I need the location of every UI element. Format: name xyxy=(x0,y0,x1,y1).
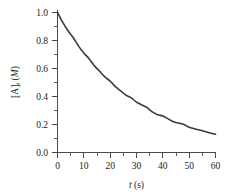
y-tick-label: 0.2 xyxy=(36,120,48,130)
x-tick-label: 20 xyxy=(105,161,115,171)
y-tick-label: 0.6 xyxy=(36,64,48,74)
y-tick-label: 0.0 xyxy=(36,148,48,158)
x-axis-title: t (s) xyxy=(129,180,144,191)
x-tick-label: 30 xyxy=(132,161,142,171)
x-tick-label: 10 xyxy=(79,161,89,171)
y-axis-title: [A]t (M) xyxy=(10,66,21,98)
y-tick-label: 1.0 xyxy=(36,8,48,18)
y-tick-label: 0.4 xyxy=(36,92,48,102)
concentration-vs-time-chart: 0.0 0.2 0.4 0.6 0.8 1.0 0 10 20 30 40 50… xyxy=(0,0,252,195)
y-tick-label: 0.8 xyxy=(36,36,48,46)
first-order-decay-figure: 0.0 0.2 0.4 0.6 0.8 1.0 0 10 20 30 40 50… xyxy=(0,0,252,195)
y-axis-title-species: [A] xyxy=(10,85,20,98)
y-axis-title-unit-close: ) xyxy=(10,66,21,69)
x-tick-label: 40 xyxy=(158,161,168,171)
x-tick-label: 0 xyxy=(55,161,60,171)
x-axis-title-unit: (s) xyxy=(132,180,144,191)
x-tick-label: 50 xyxy=(184,161,194,171)
x-tick-label: 60 xyxy=(211,161,221,171)
